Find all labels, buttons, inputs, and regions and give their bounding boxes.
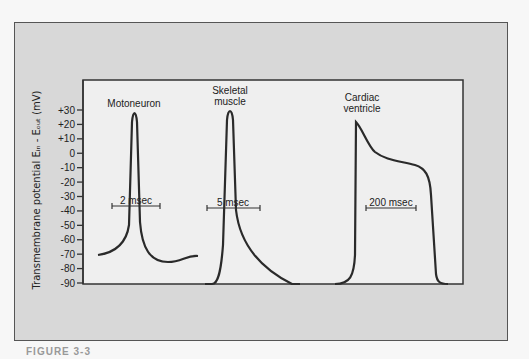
y-tick-label: -30 — [61, 191, 76, 202]
scale-bar-2msec-label: 2 msec — [120, 195, 152, 206]
motoneuron-label: Motoneuron — [107, 98, 160, 109]
y-tick-label: +30 — [58, 105, 75, 116]
y-tick-label: +20 — [58, 119, 75, 130]
scale-bar-200msec-label: 200 msec — [369, 197, 412, 208]
figure-caption: FIGURE 3-3 — [26, 346, 91, 357]
y-tick-label: -10 — [61, 162, 76, 173]
y-tick-label: -70 — [61, 249, 76, 260]
y-tick-label: 0 — [69, 148, 75, 159]
y-axis-label: Transmembrane potential Eᵢₙ - Eₒᵤₜ (mV) — [31, 90, 42, 290]
cardiac-ventricle-label: Cardiac — [345, 92, 379, 103]
skeletal-muscle-label-line2: muscle — [214, 96, 246, 107]
skeletal-muscle-label: Skeletal — [212, 85, 248, 96]
y-tick-label: -20 — [61, 177, 76, 188]
y-tick-label: -60 — [61, 234, 76, 245]
action-potential-chart: +30+20+100-10-20-30-40-50-60-70-80-90 Tr… — [0, 0, 529, 359]
plot-area — [83, 80, 463, 284]
y-tick-label: -40 — [61, 205, 76, 216]
scale-bar-5msec-label: 5 msec — [217, 197, 249, 208]
y-axis-ticks: +30+20+100-10-20-30-40-50-60-70-80-90 — [58, 105, 83, 289]
y-tick-label: -80 — [61, 263, 76, 274]
y-tick-label: -90 — [61, 278, 76, 289]
y-tick-label: -50 — [61, 220, 76, 231]
cardiac-ventricle-label-line2: ventricle — [343, 103, 381, 114]
y-tick-label: +10 — [58, 133, 75, 144]
